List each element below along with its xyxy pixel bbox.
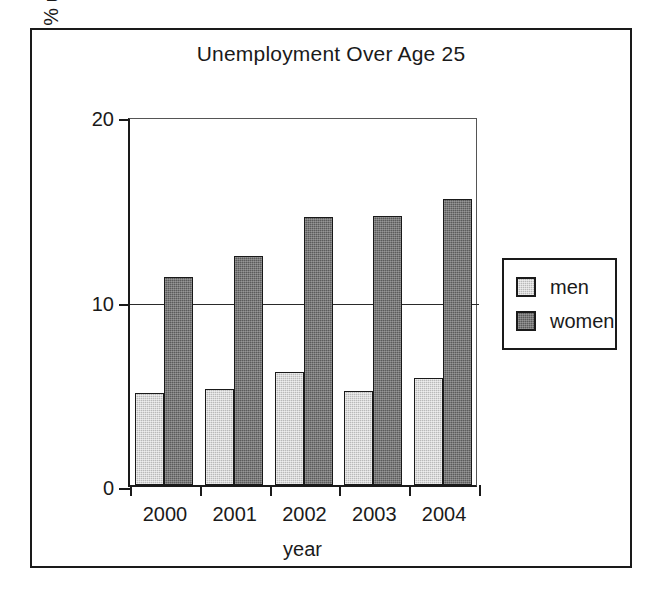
bar-men-2003[interactable] [344, 391, 373, 485]
bar-men-2001[interactable] [205, 389, 234, 485]
bar-women-2001[interactable] [234, 256, 263, 485]
y-tick-mark [119, 488, 130, 490]
legend-label-women: women [550, 310, 614, 333]
bar-women-2000[interactable] [164, 277, 193, 485]
legend-swatch-women-icon [516, 311, 536, 331]
bar-women-2004[interactable] [443, 199, 472, 485]
y-axis-title: % unemployed [40, 0, 66, 144]
bar-men-2004[interactable] [414, 378, 443, 485]
bar-women-2002[interactable] [304, 217, 333, 485]
x-axis-title: year [128, 538, 477, 561]
x-tick-mark [409, 485, 411, 496]
y-tick-label: 0 [103, 477, 114, 500]
x-tick-mark [479, 485, 481, 496]
y-tick-label: 20 [92, 108, 114, 131]
x-tick-label-2004: 2004 [422, 503, 467, 526]
chart-legend: men women [502, 258, 617, 350]
y-tick-label: 10 [92, 292, 114, 315]
bar-men-2002[interactable] [275, 372, 304, 485]
x-tick-mark [130, 485, 132, 496]
chart-title: Unemployment Over Age 25 [30, 42, 632, 66]
x-tick-mark [270, 485, 272, 496]
legend-swatch-men-icon [516, 277, 536, 297]
x-tick-mark [339, 485, 341, 496]
y-tick-mark [119, 304, 130, 306]
x-tick-label-2002: 2002 [282, 503, 327, 526]
x-tick-label-2001: 2001 [212, 503, 257, 526]
y-tick-mark [119, 119, 130, 121]
legend-item-women[interactable]: women [504, 304, 615, 338]
legend-item-men[interactable]: men [504, 270, 615, 304]
plot-area: 0102020002001200220032004 [128, 118, 477, 487]
legend-label-men: men [550, 276, 589, 299]
bar-women-2003[interactable] [373, 216, 402, 485]
bar-men-2000[interactable] [135, 393, 164, 485]
x-tick-label-2000: 2000 [143, 503, 188, 526]
x-tick-mark [200, 485, 202, 496]
x-tick-label-2003: 2003 [352, 503, 397, 526]
